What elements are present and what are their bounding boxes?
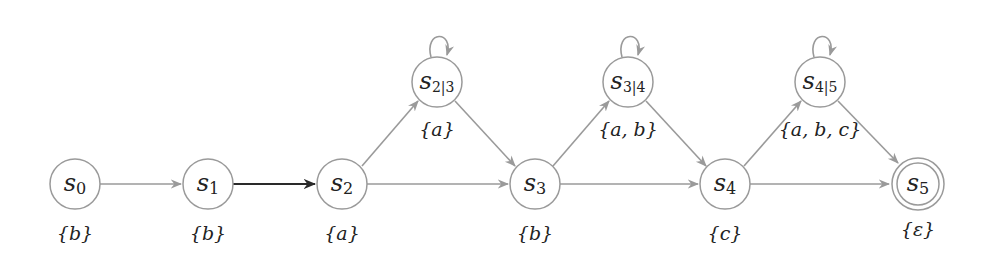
node-s3: s3 {b}: [510, 159, 560, 244]
edge-s2|3-s3: [455, 101, 515, 166]
self-loop-s2|3: [430, 36, 448, 57]
state-set-label: {a}: [419, 118, 455, 140]
state-set-label: {c}: [708, 222, 743, 244]
state-set-label: {a, b, c}: [779, 118, 861, 140]
state-set-label: {a}: [324, 222, 360, 244]
state-set-label: {b}: [517, 222, 553, 244]
node-s2: s2 {a}: [317, 159, 367, 244]
state-set-label: {a, b}: [598, 118, 658, 140]
state-subscript: 4: [726, 179, 736, 198]
state-subscript: 0: [76, 179, 86, 198]
state-label: s: [803, 67, 815, 95]
node-s4: s4 {c}: [700, 159, 750, 244]
state-set-label: {b}: [190, 222, 226, 244]
state-label: s: [420, 67, 432, 95]
state-label: s: [907, 169, 919, 197]
state-subscript: 5: [919, 179, 929, 198]
state-label: s: [524, 169, 536, 197]
state-subscript: 2|3: [432, 79, 455, 96]
node-s4|5: s4|5 {a, b, c}: [779, 57, 861, 140]
state-label: s: [611, 67, 623, 95]
automaton-diagram: s0 {b} s1 {b} s2 {a} s2|3 {a} s3 {b} s3|…: [0, 0, 984, 258]
state-subscript: 2: [343, 179, 353, 198]
state-label: s: [197, 169, 209, 197]
state-label: s: [64, 169, 76, 197]
state-label: s: [331, 169, 343, 197]
node-s5-accepting: s5 {ε}: [892, 158, 944, 240]
node-s0: s0 {b}: [50, 159, 100, 244]
state-set-label: {b}: [57, 222, 93, 244]
state-subscript: 3|4: [623, 79, 646, 96]
state-label: s: [714, 169, 726, 197]
state-subscript: 3: [536, 179, 546, 198]
self-loop-s3|4: [621, 36, 639, 57]
state-subscript: 1: [209, 179, 219, 198]
edge-s2-s2|3: [362, 101, 418, 166]
node-s2|3: s2|3 {a}: [412, 57, 462, 140]
state-set-label: {ε}: [901, 218, 935, 240]
state-subscript: 4|5: [815, 79, 838, 96]
self-loop-s4|5: [813, 36, 831, 57]
node-s3|4: s3|4 {a, b}: [598, 57, 658, 140]
node-s1: s1 {b}: [183, 159, 233, 244]
